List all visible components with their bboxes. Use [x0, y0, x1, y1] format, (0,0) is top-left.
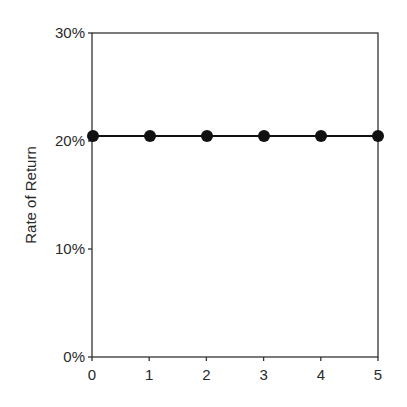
data-point [144, 130, 156, 142]
x-tick-label-4: 4 [317, 366, 325, 383]
data-point [258, 130, 270, 142]
y-tick-label-10: 10% [55, 240, 85, 257]
x-tick-label-1: 1 [145, 366, 153, 383]
plot-frame [92, 33, 378, 357]
data-point [372, 130, 384, 142]
y-tick-label-20: 20% [55, 132, 85, 149]
y-tick-label-30: 30% [55, 24, 85, 41]
x-tick-label-5: 5 [374, 366, 382, 383]
y-axis-label: Rate of Return [22, 146, 39, 244]
x-tick-label-0: 0 [88, 366, 96, 383]
data-point [87, 130, 99, 142]
chart-canvas: 0% 10% 20% 30% 0 1 2 3 4 5 Rate of Retur… [0, 0, 407, 407]
data-point [201, 130, 213, 142]
x-tick-label-3: 3 [259, 366, 267, 383]
x-tick-label-2: 2 [202, 366, 210, 383]
y-tick-label-0: 0% [63, 348, 85, 365]
data-point [315, 130, 327, 142]
